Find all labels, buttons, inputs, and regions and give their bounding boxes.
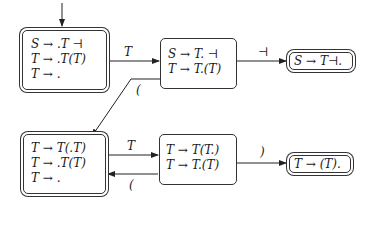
- item: T → .: [31, 171, 86, 186]
- edge-label: ): [260, 145, 265, 159]
- state-s1: S → T. ⊣ T → T.(T): [160, 38, 237, 89]
- edge-label: ⊣: [258, 45, 268, 59]
- item: T → T.(T): [166, 158, 219, 173]
- edge-label: T: [124, 45, 132, 59]
- item: T → .T(T): [31, 156, 86, 171]
- item: T → T.(T): [168, 62, 221, 77]
- state-s5: T → (T).: [289, 155, 351, 173]
- item: T → T(T.): [166, 143, 219, 158]
- item: T → (T).: [294, 157, 341, 172]
- state-s2: S → T⊣.: [289, 52, 353, 70]
- item: T → .: [31, 67, 86, 82]
- edge-label: (: [136, 83, 141, 97]
- item: S → T. ⊣: [168, 47, 221, 62]
- item: S → T⊣.: [294, 54, 342, 69]
- item: S → .T ⊣: [31, 37, 86, 52]
- edge-label: (: [129, 178, 134, 192]
- edge-label: T: [127, 139, 135, 153]
- item: T → .T(T): [31, 52, 86, 67]
- item: T → T(.T): [31, 141, 86, 156]
- state-s4: T → T(T.) T → T.(T): [159, 134, 237, 185]
- state-s3: T → T(.T) T → .T(T) T → .: [23, 134, 106, 194]
- state-s0: S → .T ⊣ T → .T(T) T → .: [22, 30, 107, 90]
